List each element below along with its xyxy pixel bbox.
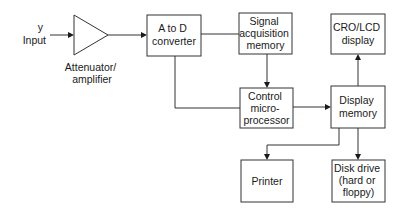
wire-adc-control (175, 56, 240, 108)
block-display-memory-label: Display memory (339, 94, 378, 119)
connectors (50, 32, 361, 160)
arrowhead-cro (355, 54, 361, 60)
amplifier-label: Attenuator/ amplifier (65, 61, 119, 85)
arrowhead-printer (264, 154, 270, 160)
block-diagram: y Input Attenuator/ amplifier A to D con… (0, 0, 407, 212)
wire-display-memory-printer (267, 128, 339, 155)
input-label: y Input (23, 21, 46, 46)
block-printer: Printer (241, 160, 293, 202)
arrowhead-input (68, 32, 74, 38)
block-cro-display: CRO/LCD display (331, 14, 385, 54)
arrowhead-display-memory (325, 104, 331, 110)
block-printer-label: Printer (252, 175, 283, 187)
block-disk-drive: Disk drive (hard or floppy) (332, 160, 385, 202)
arrowhead-disk (355, 154, 361, 160)
block-control: Control micro- processor (240, 88, 293, 128)
block-adc: A to D converter (147, 15, 201, 56)
block-signal-memory: Signal acquisition memory (239, 13, 292, 54)
block-display-memory: Display memory (331, 86, 385, 128)
arrowhead-control (264, 82, 270, 88)
block-adc-label: A to D converter (152, 22, 196, 47)
amplifier-triangle (74, 15, 108, 55)
arrowhead-adc (141, 32, 147, 38)
